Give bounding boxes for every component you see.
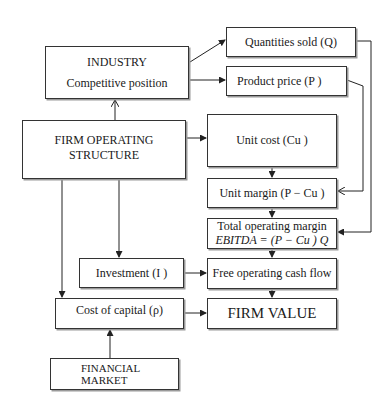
cost-of-capital-label: Cost of capital (ρ) bbox=[76, 303, 163, 318]
firm-operating-structure-box: FIRM OPERATING STRUCTURE bbox=[22, 120, 186, 179]
arrow-price-to-unitmargin bbox=[338, 80, 363, 191]
unit-cost-label: Unit cost (Cu ) bbox=[236, 133, 308, 148]
fcf-label: Free operating cash flow bbox=[213, 266, 332, 281]
total-margin-title: Total operating margin bbox=[217, 220, 327, 234]
firm-structure-line1: FIRM OPERATING bbox=[54, 133, 153, 148]
industry-subtitle: Competitive position bbox=[67, 76, 168, 91]
product-price-label: Product price (P ) bbox=[237, 74, 322, 89]
firm-structure-line2: STRUCTURE bbox=[69, 148, 139, 163]
free-operating-cash-flow-box: Free operating cash flow bbox=[207, 258, 337, 289]
firm-value-box: FIRM VALUE bbox=[207, 298, 337, 329]
cost-of-capital-box: Cost of capital (ρ) bbox=[55, 298, 184, 329]
investment-label: Investment (I ) bbox=[96, 266, 167, 281]
industry-box: INDUSTRY Competitive position bbox=[45, 46, 189, 99]
unit-cost-box: Unit cost (Cu ) bbox=[207, 114, 337, 167]
quantities-sold-label: Quantities sold (Q) bbox=[245, 35, 337, 50]
investment-box: Investment (I ) bbox=[79, 258, 184, 288]
ebitda-formula: EBITDA = (P − Cu ) Q bbox=[215, 234, 328, 248]
financial-market-line2: MARKET bbox=[81, 374, 127, 386]
product-price-box: Product price (P ) bbox=[226, 66, 347, 96]
financial-market-line1: FINANCIAL bbox=[81, 362, 140, 374]
arrow-industry-to-quantities bbox=[190, 40, 225, 62]
firm-value-label: FIRM VALUE bbox=[227, 304, 316, 323]
total-operating-margin-box: Total operating margin EBITDA = (P − Cu … bbox=[207, 218, 337, 249]
unit-margin-box: Unit margin (P − Cu ) bbox=[207, 178, 337, 208]
industry-title: INDUSTRY bbox=[87, 55, 147, 70]
financial-market-box: FINANCIAL MARKET bbox=[50, 358, 179, 390]
quantities-sold-box: Quantities sold (Q) bbox=[226, 27, 356, 57]
unit-margin-label: Unit margin (P − Cu ) bbox=[219, 186, 324, 201]
